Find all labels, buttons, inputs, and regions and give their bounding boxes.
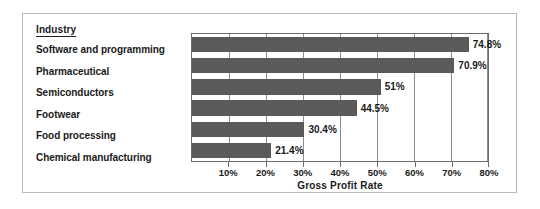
bar[interactable] (192, 58, 454, 73)
bar[interactable] (192, 79, 381, 94)
bar-value-label: 30.4% (304, 124, 336, 135)
bar-row: 74.8% (192, 34, 488, 55)
category-label: Footwear (36, 104, 191, 126)
bar-value-label: 44.5% (357, 103, 389, 114)
bar-row: 51% (192, 76, 488, 97)
x-tick-label: 40% (330, 167, 349, 178)
x-tick-label: 30% (293, 167, 312, 178)
bar-row: 44.5% (192, 98, 488, 119)
bar-row: 30.4% (192, 119, 488, 140)
bar[interactable] (192, 143, 271, 158)
x-tick-label: 70% (442, 167, 461, 178)
category-axis-header: Industry (36, 24, 76, 37)
x-tick-label: 80% (479, 167, 498, 178)
category-label: Chemical manufacturing (36, 147, 191, 169)
bar[interactable] (192, 122, 304, 137)
bar-row: 21.4% (192, 140, 488, 161)
bar-value-label: 51% (381, 81, 405, 92)
bar[interactable] (192, 37, 469, 52)
bar-series: 74.8%70.9%51%44.5%30.4%21.4% (192, 34, 488, 161)
category-label: Software and programming (36, 39, 191, 61)
x-axis-title: Gross Profit Rate (191, 180, 489, 191)
bar-value-label: 21.4% (271, 145, 303, 156)
x-tick-label: 10% (219, 167, 238, 178)
plot-area: 74.8%70.9%51%44.5%30.4%21.4% (191, 33, 489, 162)
bar[interactable] (192, 100, 357, 115)
x-tick-label: 60% (405, 167, 424, 178)
x-tick-label: 20% (256, 167, 275, 178)
chart-figure: Industry Software and programmingPharmac… (22, 13, 517, 193)
category-label: Pharmaceutical (36, 61, 191, 83)
bar-value-label: 74.8% (469, 39, 501, 50)
x-tick-label: 50% (368, 167, 387, 178)
category-label: Food processing (36, 125, 191, 147)
category-label-column: Software and programmingPharmaceuticalSe… (36, 39, 191, 168)
bar-value-label: 70.9% (454, 60, 486, 71)
bar-row: 70.9% (192, 55, 488, 76)
category-label: Semiconductors (36, 82, 191, 104)
